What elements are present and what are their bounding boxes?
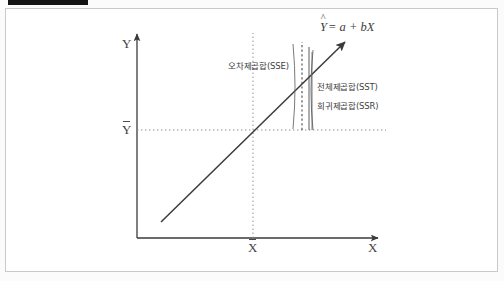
y-mean-label-text: Y — [122, 122, 131, 138]
x-axis-label: X — [368, 240, 377, 256]
equation-rhs: = a + bX — [328, 20, 374, 34]
y-mean-label: Y — [122, 122, 131, 138]
x-mean-label: X — [248, 240, 257, 256]
regression-equation-label: Y ^ = a + bX — [320, 20, 374, 35]
annotation-sst: 전체제곱합(SST) — [317, 80, 378, 92]
figure-page: Y X Y X Y ^ = a + bX 오차제곱합(SSE) 전체제곱합(SS… — [0, 0, 504, 281]
annotation-sse: 오차제곱합(SSE) — [228, 59, 289, 71]
sse-bracket — [293, 44, 295, 129]
x-mean-label-text: X — [248, 240, 257, 256]
y-axis-label: Y — [122, 36, 131, 52]
annotation-ssr: 회귀제곱합(SSR) — [317, 99, 378, 111]
y-hat-symbol: Y ^ — [320, 20, 327, 35]
circumflex-icon: ^ — [320, 13, 326, 23]
